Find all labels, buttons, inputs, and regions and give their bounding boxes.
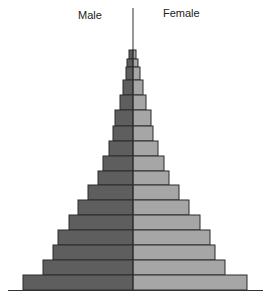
female-bar <box>133 95 146 110</box>
male-bar <box>120 95 133 110</box>
female-bar <box>133 141 158 156</box>
female-bar <box>133 275 247 290</box>
female-bar <box>133 59 138 67</box>
male-bar <box>98 171 133 185</box>
female-bar <box>133 171 169 185</box>
female-bar <box>133 185 179 200</box>
female-bar <box>133 110 151 126</box>
male-bar <box>53 245 133 260</box>
population-pyramid-chart <box>0 0 277 292</box>
female-bar <box>133 80 143 95</box>
female-bar <box>133 156 164 171</box>
male-bar <box>127 59 133 67</box>
female-bar <box>133 126 153 141</box>
male-bar <box>129 50 133 59</box>
male-bar <box>123 80 133 95</box>
male-bar <box>103 156 133 171</box>
male-bar <box>88 185 133 200</box>
male-bar <box>69 215 133 230</box>
male-bar <box>115 110 133 126</box>
female-bar <box>133 215 200 230</box>
female-bar <box>133 200 189 215</box>
male-bar <box>23 275 133 290</box>
male-bar <box>78 200 133 215</box>
male-bar <box>43 260 133 275</box>
female-bar <box>133 67 140 80</box>
male-bar <box>113 126 133 141</box>
female-bar <box>133 260 225 275</box>
male-bar <box>109 141 133 156</box>
male-bar <box>58 230 133 245</box>
female-bar <box>133 245 215 260</box>
female-bar <box>133 230 210 245</box>
bars-group <box>23 50 247 290</box>
male-bar <box>126 67 133 80</box>
